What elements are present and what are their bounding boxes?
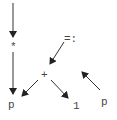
edge-p-right-to-assign	[82, 72, 100, 90]
node-one: 1	[73, 100, 80, 112]
expression-diagram: * =: + p 1 p	[0, 0, 117, 120]
edge-plus-to-p-left	[22, 80, 38, 96]
node-star: *	[10, 41, 17, 53]
edge-plus-to-one	[51, 80, 68, 98]
node-p-left: p	[8, 99, 15, 111]
node-p-right: p	[101, 96, 108, 108]
edge-assign-to-plus	[50, 42, 64, 64]
node-plus: +	[41, 69, 48, 81]
node-assign: =:	[64, 33, 77, 45]
